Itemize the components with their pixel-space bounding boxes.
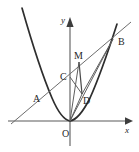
x-axis-arrow-icon	[125, 117, 133, 125]
point-label-C: C	[60, 71, 67, 82]
x-axis-label: x	[124, 125, 129, 135]
point-label-B: B	[118, 36, 125, 47]
figure-canvas: A B C M D O x y	[0, 0, 139, 152]
point-label-D: D	[83, 95, 90, 106]
point-label-A: A	[33, 93, 41, 104]
chord-line-AB	[11, 22, 131, 124]
geometry-figure: A B C M D O x y	[0, 0, 139, 152]
y-axis-arrow-icon	[66, 17, 73, 27]
segment-MD	[79, 62, 82, 94]
point-label-M: M	[74, 50, 83, 61]
y-axis-label: y	[60, 15, 65, 25]
point-label-O: O	[62, 128, 69, 139]
segment-DB	[82, 39, 113, 94]
